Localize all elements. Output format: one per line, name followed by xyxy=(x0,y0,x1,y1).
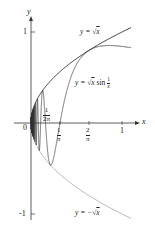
y-axis-label: y xyxy=(27,8,31,16)
x-tick-label-2-over-pi: 2 π xyxy=(86,127,90,143)
label-suffix: sin xyxy=(95,78,108,87)
label-sqrt-x: y = √x xyxy=(80,28,100,36)
frac-denominator: 2π xyxy=(43,116,50,123)
label-prefix: y = xyxy=(80,27,92,36)
label-radicand: x xyxy=(96,27,99,36)
frac-denominator: x xyxy=(107,84,109,90)
origin-label: 0 xyxy=(23,124,27,132)
label-prefix: y = xyxy=(75,78,87,87)
y-tick-label-neg1: -1 xyxy=(19,210,26,218)
frac-denominator: π xyxy=(57,136,61,143)
y-tick-label-1: 1 xyxy=(23,28,27,36)
curve-neg-sqrt-x xyxy=(31,123,131,218)
frac-denominator: π xyxy=(86,136,90,143)
label-prefix: y = − xyxy=(75,208,92,217)
frac-numerator: 2 xyxy=(86,127,90,134)
x-axis-label: x xyxy=(142,118,146,126)
frac-numerator: 1 xyxy=(57,127,61,134)
x-tick-label-1-over-pi: 1 π xyxy=(57,127,61,143)
label-radicand: x xyxy=(96,208,99,217)
label-neg-sqrt-x: y = −√x xyxy=(75,209,100,217)
label-sqrt-x-sin: y = √x sin 1x xyxy=(75,77,110,89)
y-axis-arrow-icon xyxy=(29,16,33,21)
x-tick-label-1: 1 xyxy=(120,127,124,135)
x-tick-label-1-over-2pi: 1 2π xyxy=(43,107,50,123)
frac-numerator: 1 xyxy=(45,107,49,114)
x-axis-arrow-icon xyxy=(135,121,140,125)
